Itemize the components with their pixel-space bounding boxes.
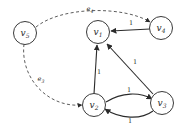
edge-v4-to-v1: [111, 29, 150, 31]
edge-label-v2-v3-upper: 1: [127, 86, 131, 94]
edge-label-e4: e4: [87, 5, 94, 13]
edge-label-v2-v1: 1: [97, 68, 101, 76]
node-v5[interactable]: v5: [14, 22, 37, 45]
node-v3[interactable]: v3: [151, 92, 174, 115]
node-v4[interactable]: v4: [150, 17, 173, 40]
edge-label-v3-v2-lower: 1: [128, 117, 132, 125]
edge-label-e3: e3: [38, 75, 45, 83]
edge-label-v3-v1: 1: [133, 58, 137, 66]
edge-v2-to-v3-upper: [106, 94, 152, 102]
node-v1[interactable]: v1: [87, 21, 110, 44]
edge-label-v4-v1: 1: [129, 19, 133, 27]
edge-v5-to-v2: [24, 44, 82, 105]
graph-figure: v5 v1 v4 v2: [0, 0, 184, 129]
node-v2[interactable]: v2: [83, 94, 106, 117]
edge-v3-to-v2-lower: [105, 109, 153, 117]
graph-canvas: v5 v1 v4 v2: [0, 0, 184, 129]
node-group: v5 v1 v4 v2: [14, 17, 174, 117]
